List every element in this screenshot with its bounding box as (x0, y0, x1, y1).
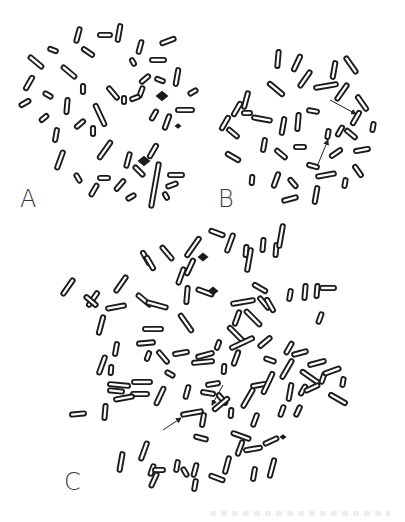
chromosome (160, 245, 175, 261)
chromosome (173, 68, 180, 86)
chromosome (330, 61, 337, 79)
chromosome (149, 109, 159, 121)
chromosome (102, 404, 108, 420)
chromosome (344, 56, 359, 75)
chromosome (162, 114, 171, 130)
chromosome (307, 108, 320, 114)
chromosome (241, 387, 256, 408)
chromosome (108, 382, 130, 388)
chromosome (329, 147, 343, 158)
chromosome (201, 390, 216, 397)
chromosome (146, 300, 168, 310)
chromosome (352, 164, 363, 178)
chromosome (106, 303, 126, 311)
chromosome (98, 33, 112, 37)
chromosome (286, 383, 293, 401)
chromosome (150, 58, 166, 62)
chromosome (188, 88, 199, 97)
panel-label-c: C (64, 470, 81, 494)
chromosome (48, 46, 59, 53)
chromosome (153, 468, 165, 472)
chromosome (260, 238, 265, 252)
chromosome (23, 75, 35, 91)
chromosome (192, 359, 214, 365)
chromosome (231, 298, 255, 306)
chromosome (191, 463, 199, 478)
chromosome (174, 460, 180, 473)
chromosome (261, 138, 268, 153)
chromosome (280, 358, 295, 379)
chromosome (61, 278, 76, 297)
chromosome (133, 165, 146, 178)
chromosome (221, 364, 226, 374)
chromosome (294, 405, 303, 418)
chromosome (129, 57, 137, 66)
chromosome (278, 405, 286, 418)
caption-bleed-through (210, 511, 390, 516)
chromosome (267, 81, 285, 97)
chromosome (244, 445, 262, 452)
chromosome (251, 413, 260, 428)
chromosome (143, 327, 163, 331)
chromosome (252, 282, 268, 294)
chromosome (173, 350, 189, 357)
chromosome (274, 148, 287, 160)
chromosome (249, 175, 254, 185)
chromosome (242, 91, 251, 109)
chromosome (97, 140, 113, 160)
chromosome (89, 183, 100, 197)
chromosome (117, 452, 125, 472)
chromosome (232, 310, 241, 326)
chromosome (295, 113, 301, 131)
marker-chromosome-icon (281, 435, 285, 438)
chromosome (316, 171, 336, 179)
chromosome (113, 342, 120, 357)
chromosome (258, 335, 273, 349)
chromosome (181, 467, 190, 478)
chromosome (156, 350, 170, 365)
chromosome (124, 152, 132, 169)
chromosome (139, 74, 151, 85)
chromosome (114, 275, 129, 294)
chromosome (108, 365, 113, 375)
chromosome (314, 82, 338, 90)
chromosome (328, 392, 347, 406)
chromosome (206, 381, 221, 388)
chromosome (292, 349, 309, 357)
chromosome (344, 128, 357, 140)
chromosome (287, 289, 293, 302)
chromosome (98, 176, 110, 180)
marker-chromosome-icon (157, 92, 167, 100)
chromosome (162, 191, 170, 200)
chromosome (147, 143, 159, 159)
panel-a-spread (19, 24, 199, 208)
chromosome (302, 284, 308, 300)
pointer-arrow-icon (318, 140, 328, 164)
chromosome (93, 103, 107, 127)
chromosome (176, 267, 186, 285)
chromosome (160, 36, 176, 45)
chromosome (370, 122, 376, 133)
chromosome-spreads-canvas (0, 0, 405, 522)
chromosome (154, 386, 166, 406)
chromosome (320, 286, 336, 290)
chromosome (231, 101, 243, 117)
chromosome (108, 388, 124, 394)
chromosome (136, 40, 144, 55)
chromosome (196, 351, 214, 360)
chromosome (225, 233, 236, 253)
chromosome (122, 96, 126, 104)
chromosome (114, 394, 134, 402)
chromosome (214, 340, 221, 351)
chromosome (316, 312, 324, 325)
chromosome (74, 119, 86, 130)
chromosome (28, 55, 44, 70)
chromosome (184, 286, 190, 304)
chromosome (132, 380, 152, 384)
chromosome (168, 173, 184, 177)
chromosome (114, 178, 126, 191)
chromosome (130, 94, 141, 101)
chromosome (235, 440, 244, 456)
chromosome (244, 309, 263, 328)
chromosome (314, 284, 319, 298)
